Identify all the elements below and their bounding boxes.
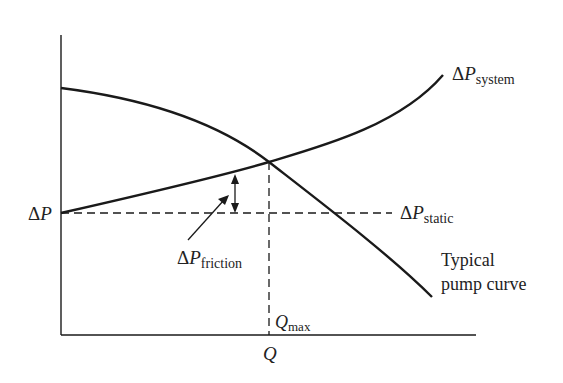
- friction-pointer-arrow: [188, 200, 224, 240]
- arrow-head-down: [231, 203, 239, 213]
- system-curve-label: ΔPsystem: [452, 63, 515, 87]
- x-axis-label: Q: [263, 343, 277, 364]
- pump-curve: [61, 88, 432, 297]
- pointer-arrow-head: [218, 195, 229, 205]
- pump-system-diagram: ΔP Q ΔPsystem ΔPstatic ΔPfriction Qmax T…: [0, 0, 563, 383]
- pump-curve-label-line1: Typical: [441, 250, 495, 270]
- qmax-label: Qmax: [275, 312, 311, 334]
- y-axis-label: ΔP: [28, 203, 52, 224]
- static-line-label: ΔPstatic: [400, 202, 453, 226]
- system-curve: [61, 75, 443, 213]
- arrow-head-up: [231, 174, 239, 184]
- pump-curve-label-line2: pump curve: [441, 274, 526, 294]
- friction-label: ΔPfriction: [177, 247, 242, 271]
